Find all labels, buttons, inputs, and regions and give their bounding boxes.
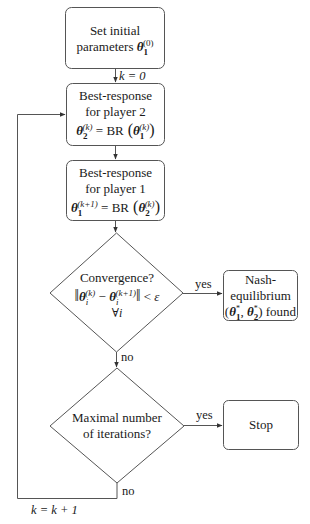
nash-line2: equilibrium (223, 288, 298, 304)
nash-label: Nash- equilibrium (θ*1, θ*2) found (223, 272, 298, 320)
nash-line3: (θ*1, θ*2) found (223, 304, 298, 320)
init-line1: Set initial (65, 23, 165, 39)
edge-label-max-yes: yes (196, 408, 213, 423)
flowchart-canvas (0, 0, 310, 524)
br2-line1: Best-response (66, 88, 165, 104)
br2-label: Best-response for player 2 θ2(k) = BR (θ… (66, 88, 165, 139)
nash-line1: Nash- (223, 272, 298, 288)
convergence-label: Convergence? ‖θi(k) − θi(k+1)‖ < ε ∀i (50, 270, 184, 321)
maxiter-line2: of iterations? (50, 426, 184, 442)
br1-formula: θ1(k+1) = BR (θ2(k)) (66, 199, 165, 216)
edge-label-conv-yes: yes (195, 277, 212, 292)
br1-line1: Best-response (66, 165, 165, 181)
edge-label-k0: k = 0 (119, 69, 145, 84)
br2-formula: θ2(k) = BR (θ1(k)) (66, 122, 165, 139)
br2-line2: for player 2 (66, 104, 165, 120)
edge-label-max-no: no (122, 484, 135, 499)
maxiter-line1: Maximal number (50, 410, 184, 426)
convergence-line1: Convergence? (50, 270, 184, 286)
init-line2: parameters θ1(0) (65, 39, 165, 55)
convergence-formula: ‖θi(k) − θi(k+1)‖ < ε (50, 288, 184, 305)
edge-label-loop: k = k + 1 (31, 503, 78, 518)
stop-label: Stop (223, 417, 299, 433)
maxiter-label: Maximal number of iterations? (50, 410, 184, 442)
br1-line2: for player 1 (66, 181, 165, 197)
br1-label: Best-response for player 1 θ1(k+1) = BR … (66, 165, 165, 216)
convergence-line3: ∀i (50, 305, 184, 321)
edge-label-conv-no: no (121, 350, 134, 365)
init-label: Set initial parameters θ1(0) (65, 23, 165, 55)
